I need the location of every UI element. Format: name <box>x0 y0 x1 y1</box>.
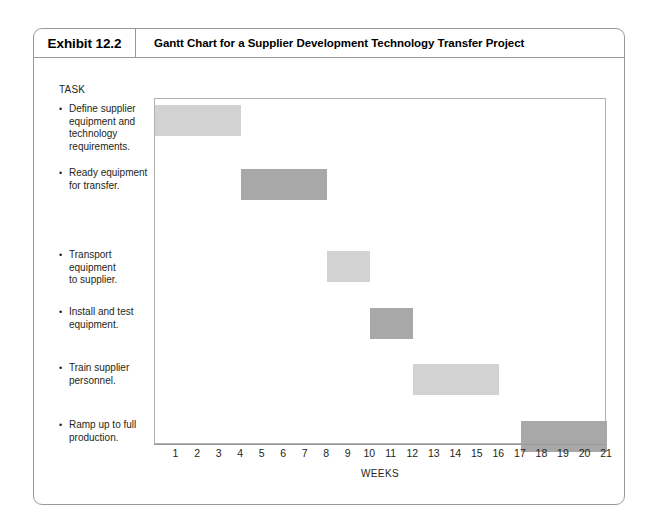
task-label-6: •Ramp up to fullproduction. <box>59 419 136 444</box>
exhibit-header: Exhibit 12.2 Gantt Chart for a Supplier … <box>34 29 624 58</box>
gantt-bar-5 <box>413 364 499 395</box>
gantt-plot-area <box>154 98 606 444</box>
task-label-text: Train supplierpersonnel. <box>69 362 129 387</box>
x-tick-label: 15 <box>471 447 483 459</box>
bullet-icon: • <box>59 306 69 331</box>
x-tick-label: 12 <box>406 447 418 459</box>
x-tick-label: 17 <box>514 447 526 459</box>
x-tick-label: 5 <box>259 447 265 459</box>
exhibit-title: Gantt Chart for a Supplier Development T… <box>136 37 524 49</box>
x-tick-label: 9 <box>345 447 351 459</box>
x-tick-label: 6 <box>280 447 286 459</box>
x-tick-label: 8 <box>323 447 329 459</box>
x-tick-label: 13 <box>428 447 440 459</box>
x-tick-label: 21 <box>600 447 612 459</box>
bullet-icon: • <box>59 167 69 192</box>
x-tick-label: 7 <box>302 447 308 459</box>
x-axis-tick-labels: 123456789101112131415161718192021 <box>154 447 606 463</box>
task-column-header: TASK <box>59 84 85 95</box>
x-tick-label: 4 <box>237 447 243 459</box>
x-tick-label: 20 <box>579 447 591 459</box>
x-tick-label: 2 <box>194 447 200 459</box>
task-label-4: •Install and testequipment. <box>59 306 133 331</box>
bullet-icon: • <box>59 362 69 387</box>
task-label-1: •Define supplierequipment andtechnologyr… <box>59 103 136 153</box>
task-label-text: Ramp up to fullproduction. <box>69 419 136 444</box>
task-label-5: •Train supplierpersonnel. <box>59 362 129 387</box>
x-tick-label: 14 <box>449 447 461 459</box>
exhibit-frame: Exhibit 12.2 Gantt Chart for a Supplier … <box>33 28 625 505</box>
gantt-bar-4 <box>370 308 413 339</box>
bullet-icon: • <box>59 103 69 153</box>
bullet-icon: • <box>59 419 69 444</box>
x-tick-label: 10 <box>363 447 375 459</box>
gantt-bar-1 <box>155 105 241 136</box>
x-axis-line <box>154 444 606 445</box>
bullet-icon: • <box>59 249 69 287</box>
x-tick-label: 1 <box>173 447 179 459</box>
task-label-text: Ready equipmentfor transfer. <box>69 167 147 192</box>
task-label-text: Transportequipmentto supplier. <box>69 249 117 287</box>
task-label-text: Define supplierequipment andtechnologyre… <box>69 103 136 153</box>
task-label-2: •Ready equipmentfor transfer. <box>59 167 147 192</box>
x-tick-label: 18 <box>536 447 548 459</box>
x-axis-title: WEEKS <box>154 468 606 479</box>
task-label-text: Install and testequipment. <box>69 306 133 331</box>
x-tick-label: 19 <box>557 447 569 459</box>
gantt-bar-3 <box>327 251 370 282</box>
x-tick-label: 16 <box>493 447 505 459</box>
exhibit-number: Exhibit 12.2 <box>34 36 135 51</box>
x-tick-label: 11 <box>385 447 396 459</box>
x-tick-label: 3 <box>216 447 222 459</box>
gantt-chart: TASK •Define supplierequipment andtechno… <box>34 58 624 504</box>
task-label-3: •Transportequipmentto supplier. <box>59 249 117 287</box>
gantt-bar-2 <box>241 169 327 200</box>
